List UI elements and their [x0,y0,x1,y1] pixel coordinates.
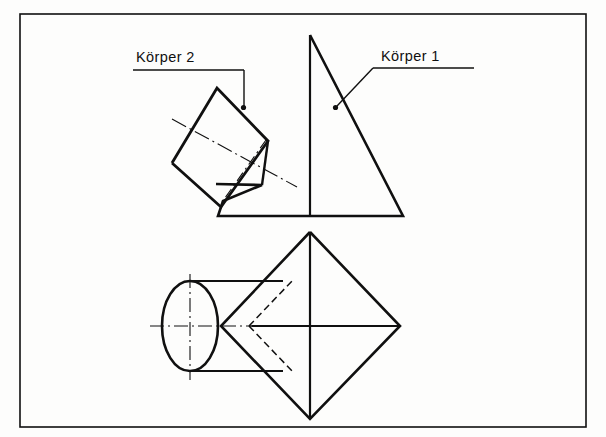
label-koerper-1-leader [337,68,373,106]
prism-edge-centerline [220,140,266,205]
label-koerper-1-text: Körper 1 [381,48,440,64]
label-koerper-1-dot [333,105,338,110]
front-view-elevation [172,35,403,216]
technical-drawing-svg: Körper 2 Körper 1 [0,0,606,437]
label-koerper-2-dot [241,105,246,110]
top-view-plan [150,232,400,419]
drawing-frame [20,14,586,427]
hidden-intersection-lower [249,326,292,371]
technical-drawing-canvas: Körper 2 Körper 1 [0,0,606,437]
prism-axis-centerline [172,119,297,187]
label-koerper-1-group[interactable]: Körper 1 [333,48,474,110]
label-koerper-2-text: Körper 2 [136,49,195,65]
